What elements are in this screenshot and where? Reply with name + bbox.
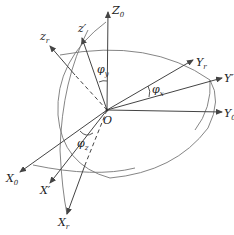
label-Y-prime: Y′ xyxy=(224,72,234,85)
axis-zr xyxy=(50,46,75,75)
label-Z0: Z0 xyxy=(111,4,125,19)
inner-meridian-arc xyxy=(60,30,88,214)
axis-zr-dashed xyxy=(75,75,107,110)
axis-Xr xyxy=(67,165,85,214)
axis-Y0 xyxy=(107,110,222,112)
right-meridian-arc xyxy=(195,80,210,130)
left-meridian-arc xyxy=(58,22,216,178)
label-zr: zr xyxy=(39,30,50,45)
label-Xr: Xr xyxy=(57,216,70,231)
origin-point xyxy=(106,109,109,112)
sphere-arcs xyxy=(33,22,216,214)
label-phi-z: φz xyxy=(77,137,89,152)
origin-label: O xyxy=(103,114,112,127)
coordinate-rotation-diagram: O Z0 z′ zr Yr Y′ Y0 X0 X′ Xr φy φx φz xyxy=(0,0,234,235)
upper-arc xyxy=(60,50,210,80)
label-X0: X0 xyxy=(5,172,19,187)
label-X-prime: X′ xyxy=(39,184,51,197)
label-z-prime: z′ xyxy=(77,22,87,35)
axis-Z0 xyxy=(107,12,108,110)
diagram-canvas: O Z0 z′ zr Yr Y′ Y0 X0 X′ Xr φy φx φz xyxy=(0,0,234,235)
label-phi-x: φx xyxy=(152,83,164,98)
axis-X0 xyxy=(20,110,107,172)
label-Y0: Y0 xyxy=(224,107,234,122)
labels: O Z0 z′ zr Yr Y′ Y0 X0 X′ Xr φy φx φz xyxy=(5,4,234,231)
axis-Y-prime xyxy=(107,78,222,110)
angle-arc-phi-z xyxy=(80,131,93,135)
angle-arc-phi-x xyxy=(148,86,150,97)
axis-Yr xyxy=(107,60,193,110)
angle-arc-phi-y xyxy=(99,81,107,82)
label-Yr: Yr xyxy=(196,56,207,71)
